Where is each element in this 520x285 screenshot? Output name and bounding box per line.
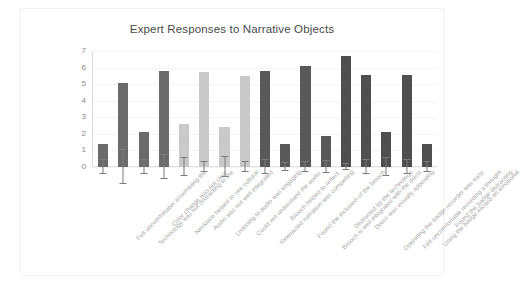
y-tick-label-1: 1 (82, 146, 86, 154)
error-bar-cap-upper (342, 163, 349, 164)
bar (422, 144, 432, 167)
bar-slot (336, 51, 356, 167)
bar (321, 136, 331, 167)
bar-slot (397, 51, 417, 167)
y-tick-label-6: 6 (82, 64, 86, 72)
y-tick-label-4: 4 (82, 97, 86, 105)
bar-slot (113, 51, 133, 167)
bar-slot (376, 51, 396, 167)
error-bar-cap-upper (140, 159, 147, 160)
chart-frame: Expert Responses to Narrative Objects 01… (20, 8, 444, 276)
bar (381, 132, 391, 167)
bar-slot (356, 51, 376, 167)
error-bar-cap-upper (261, 159, 268, 160)
x-tick-label: Found the badge distracting (454, 169, 514, 229)
error-bar-cap-upper (423, 161, 430, 162)
error-bar-cap-upper (403, 159, 410, 160)
bar (402, 75, 412, 167)
y-tick-label-0: 0 (82, 163, 86, 171)
bar (159, 71, 169, 167)
chart-title: Expert Responses to Narrative Objects (21, 23, 443, 35)
bar (300, 66, 310, 167)
bar (179, 124, 189, 167)
bar (240, 76, 250, 167)
y-tick-label-2: 2 (82, 130, 86, 138)
error-bar-cap-upper (383, 157, 390, 158)
bar (98, 144, 108, 167)
error-bar-cap-upper (160, 154, 167, 155)
bar-slot (235, 51, 255, 167)
bar (139, 132, 149, 167)
bar-slot (194, 51, 214, 167)
error-bar-cap-upper (363, 159, 370, 160)
bar (341, 56, 351, 167)
bar (118, 83, 128, 168)
bar (361, 75, 371, 167)
bar-slot (417, 51, 437, 167)
error-bar-cap-upper (241, 161, 248, 162)
x-axis-tick-labels: Felt uncomfortable assembling theTechnol… (93, 169, 437, 285)
bar (280, 144, 290, 167)
bar-slot (275, 51, 295, 167)
error-bar-cap-upper (282, 162, 289, 163)
error-bar-cap-upper (100, 159, 107, 160)
error-bar-cap-upper (201, 161, 208, 162)
error-bar-cap-upper (181, 157, 188, 158)
bar-slot (154, 51, 174, 167)
error-bar-cap-upper (221, 156, 228, 157)
bar-slot (295, 51, 315, 167)
y-tick-label-5: 5 (82, 80, 86, 88)
bar (219, 127, 229, 167)
x-tick-label: Using the badge elicited an emotional (441, 169, 520, 248)
error-bar-cap-upper (302, 161, 309, 162)
bar-slot (93, 51, 113, 167)
bar (199, 72, 209, 167)
x-tick-label: Felt uncomfortable recording a thought (422, 169, 503, 250)
error-bar-cap-upper (322, 160, 329, 161)
bar-slot (133, 51, 153, 167)
error-bar-cap-upper (120, 149, 127, 150)
bar-slot (214, 51, 234, 167)
y-tick-label-7: 7 (82, 47, 86, 55)
bar (260, 71, 270, 167)
bar-slot (255, 51, 275, 167)
plot-area: 01234567 (93, 51, 437, 167)
bar-slot (316, 51, 336, 167)
y-tick-label-3: 3 (82, 113, 86, 121)
bar-slot (174, 51, 194, 167)
